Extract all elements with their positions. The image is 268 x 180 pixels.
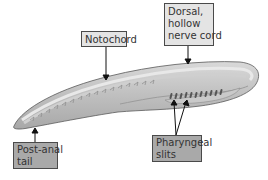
post-anal-tail-label: Post-anal tail [13, 142, 58, 169]
post-anal-tail-label-line-1: Post-anal [17, 144, 54, 156]
dorsal-nerve-cord-label: Dorsal, hollow nerve cord [164, 3, 214, 46]
pharyngeal-slits-label-line-1: Pharyngeal [156, 137, 198, 149]
dorsal-nerve-cord-label-line-1: Dorsal, [168, 6, 210, 18]
dorsal-nerve-cord-label-line-3: nerve cord [168, 30, 210, 42]
notochord-label-text: Notochord [85, 34, 123, 46]
chordate-diagram: Notochord Dorsal, hollow nerve cord Post… [0, 0, 268, 180]
post-anal-tail-label-line-2: tail [17, 156, 54, 168]
pharyngeal-slits-label: Pharyngeal slits [152, 135, 202, 162]
notochord-label: Notochord [81, 31, 127, 47]
dorsal-nerve-cord-label-line-2: hollow [168, 18, 210, 30]
pharyngeal-slits-label-line-2: slits [156, 149, 198, 161]
